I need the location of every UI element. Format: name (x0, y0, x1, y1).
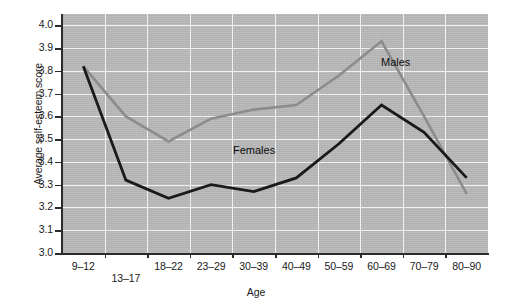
chart-figure: 3.03.13.23.33.43.53.63.73.83.94.0 9–1213… (0, 0, 512, 303)
series-label-females: Females (233, 144, 275, 156)
series-line-females (83, 66, 466, 198)
series-label-males: Males (381, 56, 410, 68)
